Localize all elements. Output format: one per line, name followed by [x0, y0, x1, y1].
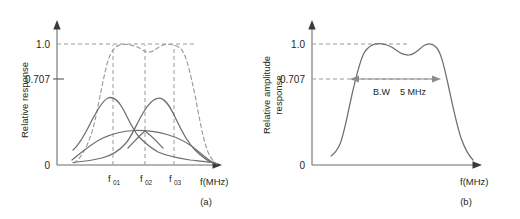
y-tick-label-unity-b: 1.0 [291, 39, 305, 50]
bandwidth-label: B.W [373, 87, 391, 97]
x-tick-label-f01: f 01 [108, 173, 121, 186]
bandwidth-arrow-right [432, 76, 441, 83]
x-tick-sub-f03: 03 [174, 179, 182, 186]
figure-container: 1.0 0.707 0 f 01 f 02 f 03 f(MHz) Relati… [0, 0, 520, 219]
panel-caption-a: (a) [200, 196, 212, 207]
panel-caption-b: (b) [460, 196, 472, 207]
chart-panel-b: B.W 5 MHz 1.0 0.707 0 f(MHz) Relative am… [260, 0, 520, 219]
curve-composite-bandpass [331, 44, 473, 161]
y-tick-label-unity-a: 1.0 [36, 39, 50, 50]
x-tick-base-f03: f [169, 173, 172, 184]
x-tick-label-f03: f 03 [169, 173, 182, 186]
y-axis-arrow-b [308, 20, 315, 30]
x-tick-label-f02: f 02 [140, 173, 153, 186]
chart-panel-a: 1.0 0.707 0 f 01 f 02 f 03 f(MHz) Relati… [0, 0, 260, 219]
x-tick-sub-f02: 02 [145, 179, 153, 186]
bandwidth-dimension [350, 76, 441, 83]
x-axis-arrow-a [213, 161, 223, 168]
x-axis-arrow-b [473, 161, 483, 168]
x-tick-base-f01: f [108, 173, 111, 184]
x-tick-sub-f01: 01 [113, 179, 121, 186]
curve-broad-f02 [72, 130, 214, 163]
x-axis-title-b: f(MHz) [460, 176, 489, 187]
y-tick-label-zero-b: 0 [299, 160, 305, 171]
y-axis-title-b-line1: Relative amplitude [261, 56, 272, 134]
curve-overall-envelope [74, 44, 217, 164]
y-tick-label-zero-a: 0 [44, 160, 50, 171]
x-tick-base-f02: f [140, 173, 143, 184]
axes-panel-b [308, 20, 482, 169]
y-axis-title-a: Relative response [19, 62, 30, 138]
axes-panel-a [53, 20, 222, 169]
bandwidth-value: 5 MHz [400, 87, 427, 97]
y-axis-arrow-a [53, 20, 60, 30]
y-axis-title-b-line2: response [273, 75, 284, 114]
x-axis-title-a: f(MHz) [200, 176, 229, 187]
